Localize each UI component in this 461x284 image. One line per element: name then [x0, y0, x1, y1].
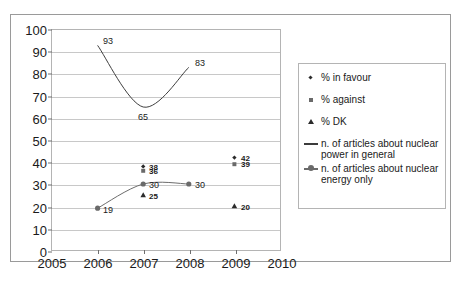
x-axis-tick-label: 2010 — [268, 257, 297, 270]
plot-area: 0102030405060708090100 20052006200720082… — [51, 29, 281, 251]
legend-label: n. of articles about nuclear energy only — [321, 163, 441, 185]
legend-item-in-favour[interactable]: % in favour — [303, 72, 441, 83]
y-axis-tick-label: 100 — [25, 24, 47, 37]
data-point-circle — [186, 181, 191, 186]
y-axis-tick-label: 40 — [33, 157, 47, 170]
data-point-label: 30 — [195, 181, 205, 190]
data-point-label: 83 — [195, 58, 205, 67]
x-axis-tick-label: 2006 — [84, 257, 113, 270]
line-circle-icon — [303, 163, 319, 174]
x-axis-tick-label: 2007 — [130, 257, 159, 270]
data-point-label: 30 — [149, 181, 159, 190]
x-axis-tick-mark — [98, 250, 99, 254]
legend-label: % against — [321, 94, 365, 105]
y-axis-tick-label: 20 — [33, 201, 47, 214]
data-point-label: 65 — [138, 112, 148, 121]
data-point-label: 25 — [149, 193, 158, 201]
chart-legend: % in favour % against % DK n. of article… — [298, 63, 446, 209]
line-icon — [303, 138, 319, 149]
data-point-circle — [141, 181, 146, 186]
chart-figure: 0102030405060708090100 20052006200720082… — [10, 14, 451, 262]
square-icon — [303, 94, 319, 105]
legend-item-against[interactable]: % against — [303, 94, 441, 105]
diamond-icon — [303, 72, 319, 83]
y-axis-tick-label: 60 — [33, 112, 47, 125]
data-point-triangle — [140, 192, 146, 197]
data-point-diamond — [141, 164, 145, 168]
legend-item-articles-nuclear-power[interactable]: n. of articles about nuclear power in ge… — [303, 138, 441, 160]
x-axis-tick-label: 2009 — [222, 257, 251, 270]
x-axis-tick-mark — [144, 250, 145, 254]
x-axis-tick-label: 2008 — [176, 257, 205, 270]
legend-item-dk[interactable]: % DK — [303, 116, 441, 127]
series-layer — [52, 30, 280, 250]
data-point-label: 20 — [241, 204, 250, 212]
y-axis-tick-mark — [48, 252, 52, 253]
series-line — [98, 45, 189, 107]
y-axis-tick-label: 10 — [33, 223, 47, 236]
data-point-label: 19 — [103, 205, 113, 214]
legend-item-articles-nuclear-energy[interactable]: n. of articles about nuclear energy only — [303, 163, 441, 185]
legend-label: n. of articles about nuclear power in ge… — [321, 138, 441, 160]
y-axis-tick-label: 90 — [33, 46, 47, 59]
legend-label: % DK — [321, 116, 347, 127]
data-point-label: 39 — [241, 161, 250, 169]
x-axis-tick-mark — [190, 250, 191, 254]
x-axis-tick-label: 2005 — [38, 257, 67, 270]
y-axis-tick-label: 50 — [33, 135, 47, 148]
data-point-diamond — [232, 155, 236, 159]
data-point-triangle — [232, 203, 238, 208]
data-point-circle — [95, 206, 100, 211]
y-axis-tick-label: 30 — [33, 179, 47, 192]
data-point-label: 93 — [103, 36, 113, 45]
x-axis-tick-mark — [236, 250, 237, 254]
data-point-square — [141, 169, 145, 173]
y-axis-tick-label: 70 — [33, 90, 47, 103]
y-axis-tick-label: 80 — [33, 68, 47, 81]
legend-label: % in favour — [321, 72, 371, 83]
data-point-label: 36 — [149, 168, 158, 176]
data-point-square — [232, 162, 236, 166]
triangle-icon — [303, 116, 319, 127]
